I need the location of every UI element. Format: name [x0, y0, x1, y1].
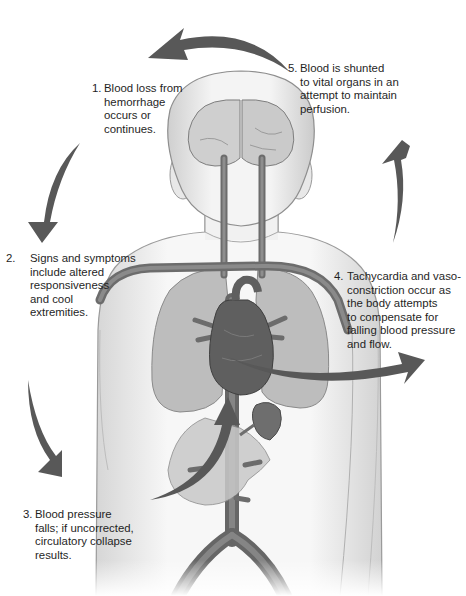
step-5-text: Blood is shunted to vital organs in an a…	[300, 62, 460, 116]
cycle-arrow-icon-left-lower	[28, 380, 62, 477]
step-4-text: Tachycardia and vaso- constriction occur…	[347, 270, 466, 352]
step-3-number: 3.	[23, 508, 33, 522]
cycle-arrow-icon-left-upper	[28, 143, 80, 243]
cycle-arrow-icon-right	[382, 140, 410, 243]
step-3-label: 3. Blood pressure falls; if uncorrected,…	[35, 508, 165, 562]
step-5-number: 5.	[288, 62, 298, 76]
step-2-number: 2.	[6, 252, 16, 266]
step-2-text: Signs and symptoms include altered respo…	[18, 252, 148, 320]
step-5-label: 5. Blood is shunted to vital organs in a…	[300, 62, 460, 116]
step-1-text: Blood loss from hemorrhage occurs or con…	[104, 82, 234, 136]
step-1-number: 1.	[92, 82, 102, 96]
step-4-number: 4.	[334, 270, 344, 284]
cycle-arrow-icon-top	[148, 28, 290, 72]
step-2-label: 2. Signs and symptoms include altered re…	[18, 252, 148, 320]
step-3-text: Blood pressure falls; if uncorrected, ci…	[35, 508, 165, 562]
step-1-label: 1. Blood loss from hemorrhage occurs or …	[104, 82, 234, 136]
step-4-label: 4. Tachycardia and vaso- constriction oc…	[347, 270, 466, 352]
